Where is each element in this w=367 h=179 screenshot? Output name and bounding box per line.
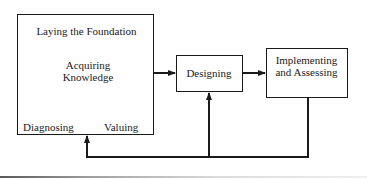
designing-box: Designing (176, 55, 243, 92)
acquiring-knowledge-label: Acquiring Knowledge (55, 59, 121, 83)
implementing-assessing-box: Implementing and Assessing (266, 48, 348, 98)
foundation-box: Laying the Foundation Acquiring Knowledg… (17, 14, 154, 135)
bottom-divider (0, 176, 367, 178)
designing-label: Designing (177, 68, 241, 79)
implementing-assessing-label: Implementing and Assessing (267, 55, 346, 78)
foundation-title: Laying the Foundation (18, 26, 155, 37)
diagnosing-label: Diagnosing (23, 122, 74, 133)
valuing-label: Valuing (104, 122, 138, 133)
